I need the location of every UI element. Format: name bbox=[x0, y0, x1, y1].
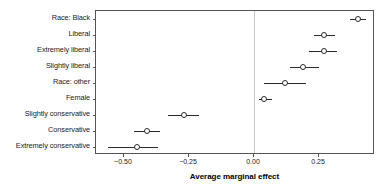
y-axis-category-labels: Race: BlackLiberalExtremely liberalSligh… bbox=[0, 10, 90, 154]
y-axis-label: Slightly conservative bbox=[0, 110, 90, 118]
x-axis-title: Average marginal effect bbox=[95, 172, 374, 181]
y-axis-label: Extremely conservative bbox=[0, 142, 90, 150]
estimate-marker bbox=[321, 48, 327, 54]
x-axis-tick-label: −0.50 bbox=[114, 158, 132, 165]
estimate-marker bbox=[261, 96, 267, 102]
y-axis-tick bbox=[93, 99, 96, 100]
estimate-marker bbox=[355, 16, 361, 22]
y-axis-label: Race: other bbox=[0, 78, 90, 86]
y-axis-tick bbox=[93, 35, 96, 36]
plot-area bbox=[95, 10, 374, 154]
x-axis-tick bbox=[318, 154, 319, 157]
x-axis-tick bbox=[123, 154, 124, 157]
estimate-marker bbox=[321, 32, 327, 38]
y-axis-label: Liberal bbox=[0, 30, 90, 38]
zero-reference-line bbox=[254, 11, 255, 153]
y-axis-tick bbox=[93, 147, 96, 148]
x-axis-tick bbox=[188, 154, 189, 157]
y-axis-label: Female bbox=[0, 94, 90, 102]
x-axis-tick bbox=[253, 154, 254, 157]
y-axis-label: Conservative bbox=[0, 126, 90, 134]
estimate-marker bbox=[134, 144, 140, 150]
y-axis-tick bbox=[93, 83, 96, 84]
y-axis-tick bbox=[93, 19, 96, 20]
y-axis-label: Extremely liberal bbox=[0, 46, 90, 54]
coefficient-plot-figure: Race: BlackLiberalExtremely liberalSligh… bbox=[0, 0, 391, 193]
y-axis-tick bbox=[93, 67, 96, 68]
y-axis-tick bbox=[93, 51, 96, 52]
x-axis-tick-label: −0.25 bbox=[179, 158, 197, 165]
estimate-marker bbox=[300, 64, 306, 70]
estimate-marker bbox=[282, 80, 288, 86]
estimate-marker bbox=[181, 112, 187, 118]
y-axis-tick bbox=[93, 115, 96, 116]
x-axis-tick-label: 0.00 bbox=[246, 158, 260, 165]
estimate-marker bbox=[144, 128, 150, 134]
x-axis: −0.50−0.250.000.25 bbox=[95, 154, 374, 174]
y-axis-tick bbox=[93, 131, 96, 132]
x-axis-tick-label: 0.25 bbox=[311, 158, 325, 165]
y-axis-label: Race: Black bbox=[0, 14, 90, 22]
y-axis-label: Slightly liberal bbox=[0, 62, 90, 70]
